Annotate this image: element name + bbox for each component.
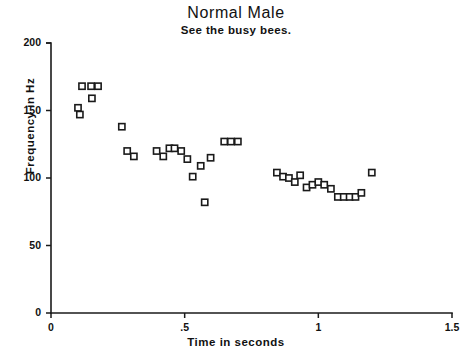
- data-point-marker: [190, 174, 196, 180]
- plot-area: [0, 0, 472, 360]
- data-point-marker: [297, 172, 303, 178]
- y-tick-label: 100: [3, 171, 41, 183]
- data-point-marker: [178, 148, 184, 154]
- data-point-marker: [88, 83, 94, 89]
- data-point-marker: [208, 155, 214, 161]
- axes: [46, 43, 452, 318]
- data-point-marker: [321, 182, 327, 188]
- data-point-marker: [75, 105, 81, 111]
- y-tick-label: 150: [3, 104, 41, 116]
- scatter-plot-figure: Normal Male See the busy bees. Frequency…: [0, 0, 472, 360]
- data-point-marker: [274, 170, 280, 176]
- data-point-marker: [154, 148, 160, 154]
- data-markers: [75, 83, 375, 205]
- data-point-marker: [358, 190, 364, 196]
- data-point-marker: [184, 156, 190, 162]
- data-point-marker: [171, 145, 177, 151]
- data-point-marker: [292, 179, 298, 185]
- data-point-marker: [369, 170, 375, 176]
- y-tick-label: 0: [3, 306, 41, 318]
- data-point-marker: [328, 186, 334, 192]
- data-point-marker: [198, 163, 204, 169]
- y-tick-label: 200: [3, 36, 41, 48]
- x-tick-label: 0: [31, 321, 71, 333]
- x-tick-label: .5: [165, 321, 205, 333]
- data-point-marker: [160, 153, 166, 159]
- data-point-marker: [77, 111, 83, 117]
- y-tick-label: 50: [3, 239, 41, 251]
- data-point-marker: [79, 83, 85, 89]
- data-point-marker: [221, 138, 227, 144]
- data-point-marker: [202, 199, 208, 205]
- x-tick-label: 1: [298, 321, 338, 333]
- data-point-marker: [95, 83, 101, 89]
- data-point-marker: [89, 95, 95, 101]
- data-point-marker: [235, 138, 241, 144]
- data-point-marker: [119, 124, 125, 130]
- data-point-marker: [228, 138, 234, 144]
- data-point-marker: [124, 148, 130, 154]
- data-point-marker: [131, 153, 137, 159]
- x-tick-label: 1.5: [432, 321, 472, 333]
